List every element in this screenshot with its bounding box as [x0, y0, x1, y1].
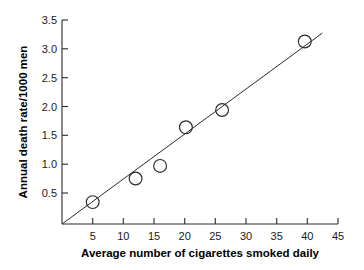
- x-tick-label: 20: [179, 230, 191, 242]
- y-tick-label: 1.5: [42, 129, 57, 141]
- y-tick-label: 3.5: [42, 14, 57, 26]
- y-tick-label: 0.5: [42, 187, 57, 199]
- x-tick-label: 45: [332, 230, 344, 242]
- x-axis-tick-labels: 5 10 15 20 25 30 35 40 45: [90, 230, 344, 242]
- x-tick-label: 40: [301, 230, 313, 242]
- y-tick-label: 2.5: [42, 72, 57, 84]
- y-tick-label: 3.0: [42, 43, 57, 55]
- x-tick-label: 5: [90, 230, 96, 242]
- y-axis-title: Annual death rate/1000 men: [17, 46, 29, 199]
- x-axis-title: Average number of cigarettes smoked dail…: [81, 247, 320, 259]
- y-tick-label: 2.0: [42, 101, 57, 113]
- x-tick-label: 10: [117, 230, 129, 242]
- x-tick-label: 35: [271, 230, 283, 242]
- chart-canvas: 3.5 3.0 2.5 2.0 1.5 1.0 0.5 5 10 15 20: [0, 0, 364, 270]
- x-tick-label: 15: [148, 230, 160, 242]
- x-tick-label: 30: [240, 230, 252, 242]
- y-tick-label: 1.0: [42, 158, 57, 170]
- scatter-plot-figure: 3.5 3.0 2.5 2.0 1.5 1.0 0.5 5 10 15 20: [0, 0, 364, 270]
- x-tick-label: 25: [209, 230, 221, 242]
